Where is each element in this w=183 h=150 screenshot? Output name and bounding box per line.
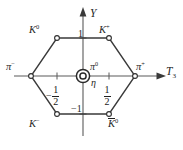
fraction-numerator: 1 <box>52 85 59 95</box>
state-label-k-minus-superscript: − <box>36 117 40 124</box>
state-label-k-zero-superscript: 0 <box>36 23 39 30</box>
fraction-stack: 1 2 <box>104 85 111 107</box>
state-label-k-bar-zero: K0 <box>108 119 118 130</box>
diagram-canvas <box>0 0 183 150</box>
state-label-pi-zero-superscript: 0 <box>95 60 98 67</box>
t3-axis-label: T3 <box>166 66 176 78</box>
fraction-stack: 1 2 <box>52 85 59 107</box>
fraction-minus-sign: − <box>46 91 52 101</box>
y-tick-label-negative-one: −1 <box>71 104 82 114</box>
state-label-pi-plus-superscript: + <box>141 60 145 67</box>
state-label-k-plus-base: K <box>99 24 106 35</box>
state-label-k-plus-superscript: + <box>106 23 110 30</box>
fraction-numerator: 1 <box>104 85 111 95</box>
y-axis-label: Y <box>90 8 96 20</box>
t3-tick-label-negative-one-half: − 1 2 <box>46 85 59 107</box>
meson-octet-weight-diagram: Y T3 1 −1 − 1 2 1 2 π0 η K0 K+ π+ <box>0 0 183 150</box>
state-label-pi-zero: π0 <box>90 62 98 72</box>
y-tick-label-positive-one: 1 <box>78 29 83 39</box>
state-label-k-plus: K+ <box>99 25 110 36</box>
state-label-k-zero: K0 <box>29 25 39 36</box>
fraction-denominator: 2 <box>52 97 59 107</box>
state-label-k-minus-base: K <box>29 118 36 129</box>
t3-axis-label-subscript: 3 <box>172 72 176 80</box>
state-label-k-zero-base: K <box>29 24 36 35</box>
state-label-pi-plus: π+ <box>136 62 145 73</box>
state-label-eta-base: η <box>91 77 96 88</box>
state-label-pi-minus-superscript: − <box>11 60 15 67</box>
origin-double-circle-marker <box>76 69 89 82</box>
state-label-pi-minus: π− <box>6 62 15 73</box>
state-label-k-bar-zero-superscript: 0 <box>115 117 118 124</box>
fraction-denominator: 2 <box>104 97 111 107</box>
state-label-eta: η <box>91 78 96 88</box>
state-label-k-bar-zero-base: K <box>108 119 115 130</box>
t3-tick-label-positive-one-half: 1 2 <box>103 85 111 107</box>
state-label-k-minus: K− <box>29 119 40 130</box>
